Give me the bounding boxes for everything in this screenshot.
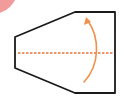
fold-diagram: Fold instruction (0, 0, 123, 101)
corner-marker (0, 0, 18, 14)
